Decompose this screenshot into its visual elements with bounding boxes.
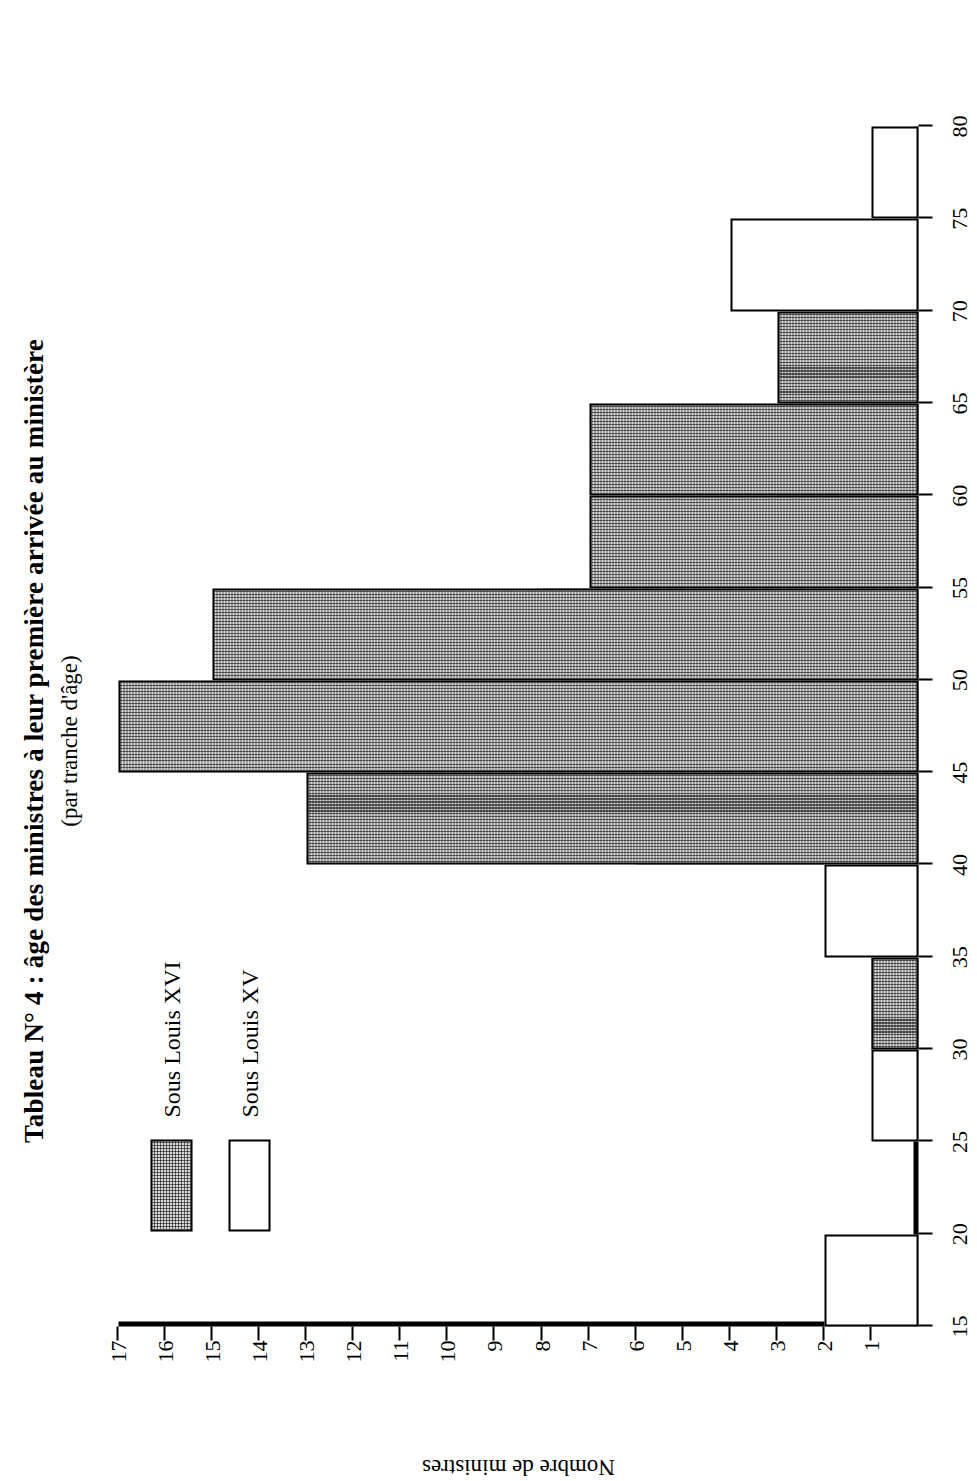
y-tick-label: 7 [578,1340,600,1396]
figure-root: Tableau N° 4 : âge des ministres à leur … [0,0,977,1481]
x-tick-label: 35 [946,927,972,987]
x-tick-label: 40 [946,834,972,894]
y-tick-label: 8 [531,1340,553,1396]
y-tick [257,1326,259,1340]
x-tick-label: 60 [946,465,972,525]
y-tick [163,1326,165,1340]
bar [589,495,918,587]
y-tick [492,1326,494,1340]
x-tick [918,678,932,680]
bar [589,403,918,495]
bar [871,126,918,218]
y-tick-label: 1 [860,1340,882,1396]
y-tick-label: 15 [201,1340,223,1396]
bar [824,864,918,956]
x-tick [918,124,932,126]
x-tick [918,770,932,772]
y-tick-label: 11 [389,1340,411,1396]
y-tick [775,1326,777,1340]
y-tick-label: 4 [719,1340,741,1396]
y-tick [304,1326,306,1340]
bar [306,772,918,864]
y-tick-label: 13 [295,1340,317,1396]
x-tick [918,216,932,218]
page-subtitle: (par tranche d'âge) [56,0,82,1481]
y-tick-label: 6 [625,1340,647,1396]
bar [777,311,918,403]
x-tick [918,586,932,588]
bar [871,1049,918,1141]
y-tick [634,1326,636,1340]
y-tick [116,1326,118,1340]
x-tick-label: 70 [946,281,972,341]
bar [730,218,918,310]
x-tick-label: 50 [946,650,972,710]
x-tick-label: 15 [946,1296,972,1356]
y-tick-label: 14 [248,1340,270,1396]
x-tick-label: 80 [946,96,972,156]
x-tick-label: 65 [946,373,972,433]
y-axis-title: Nombre de ministres [348,1453,688,1479]
y-tick-label: 17 [107,1340,129,1396]
x-tick [918,1232,932,1234]
y-tick-label: 3 [766,1340,788,1396]
y-tick [681,1326,683,1340]
x-tick-label: 75 [946,188,972,248]
x-tick-label: 25 [946,1111,972,1171]
x-tick-label: 45 [946,742,972,802]
y-tick-label: 9 [483,1340,505,1396]
page-title: Tableau N° 4 : âge des ministres à leur … [18,0,49,1481]
x-tick [918,1324,932,1326]
x-tick-label: 30 [946,1019,972,1079]
y-tick [398,1326,400,1340]
bar [118,680,918,772]
x-tick [918,1139,932,1141]
y-tick [869,1326,871,1340]
y-tick [587,1326,589,1340]
y-tick-label: 12 [342,1340,364,1396]
y-tick [351,1326,353,1340]
x-tick-label: 20 [946,1204,972,1264]
x-tick [918,862,932,864]
x-tick [918,309,932,311]
rotated-figure-stage: Tableau N° 4 : âge des ministres à leur … [0,0,977,1481]
y-tick [540,1326,542,1340]
y-tick [728,1326,730,1340]
y-tick-label: 5 [672,1340,694,1396]
y-tick [822,1326,824,1340]
y-tick [445,1326,447,1340]
bar [824,1234,918,1326]
y-tick-label: 16 [154,1340,176,1396]
x-tick [918,1047,932,1049]
bar [871,957,918,1049]
y-tick-label: 2 [813,1340,835,1396]
x-tick [918,493,932,495]
y-tick [210,1326,212,1340]
x-tick [918,955,932,957]
x-tick [918,401,932,403]
x-tick-label: 55 [946,558,972,618]
plot-area: 1520253035404550556065707580 12345678910… [118,126,918,1326]
bar [212,588,918,680]
y-tick-label: 10 [436,1340,458,1396]
y-axis-line [118,1321,918,1326]
